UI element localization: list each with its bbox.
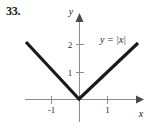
y-axis-label: y	[68, 6, 74, 17]
plot-area: -1 1 2 1 x y y = |x|	[0, 0, 151, 130]
x-axis-arrowhead	[136, 96, 144, 104]
y-axis-arrowhead	[76, 13, 84, 22]
absolute-value-curve	[26, 42, 138, 99]
x-axis-label: x	[138, 108, 144, 119]
y-tick-label-1: 1	[68, 68, 73, 78]
figure-container: 33. -1 1 2 1 x y y = |	[0, 0, 151, 130]
y-tick-label-2: 2	[68, 40, 73, 50]
x-tick-label-neg1: -1	[48, 105, 56, 115]
curve-equation-label: y = |x|	[99, 34, 126, 45]
coordinate-plot: -1 1 2 1 x y y = |x|	[0, 0, 151, 130]
x-tick-label-pos1: 1	[105, 105, 110, 115]
